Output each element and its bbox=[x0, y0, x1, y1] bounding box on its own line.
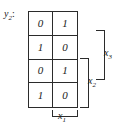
variable-x3-subscript: 3 bbox=[108, 53, 112, 61]
variable-label-x2: x2 bbox=[88, 76, 96, 89]
variable-x2-subscript: 2 bbox=[92, 81, 96, 89]
variable-x1-subscript: 1 bbox=[62, 116, 66, 124]
kmap-cell: 0 bbox=[29, 60, 53, 84]
kmap-cell: 1 bbox=[29, 83, 53, 107]
kmap-cell: 0 bbox=[29, 12, 53, 36]
kmap-grid: 0 1 1 0 0 1 1 0 bbox=[28, 11, 78, 108]
karnaugh-map-figure: y2: 0 1 1 0 0 1 1 0 x3 x2 x1 bbox=[0, 0, 117, 125]
kmap-cell: 0 bbox=[53, 83, 77, 107]
variable-label-x3: x3 bbox=[104, 48, 112, 61]
kmap-cell: 1 bbox=[29, 36, 53, 60]
output-variable-label: y2: bbox=[4, 9, 15, 22]
kmap-cell: 1 bbox=[53, 60, 77, 84]
kmap-cell: 1 bbox=[53, 12, 77, 36]
output-label-colon: : bbox=[12, 8, 15, 19]
variable-label-x1: x1 bbox=[58, 111, 66, 124]
kmap-cell: 0 bbox=[53, 36, 77, 60]
